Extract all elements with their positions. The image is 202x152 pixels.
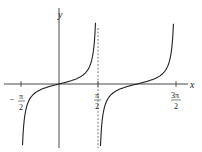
tick-label-neg-pi-2: − π 2: [9, 92, 25, 112]
svg-text:π: π: [19, 92, 23, 101]
svg-text:2: 2: [174, 102, 178, 111]
svg-text:2: 2: [95, 102, 99, 111]
tick-label-pi-2: π 2: [94, 91, 101, 111]
x-axis-label: x: [189, 79, 195, 90]
y-axis-label: y: [57, 9, 63, 20]
svg-text:−: −: [9, 94, 14, 104]
svg-text:π: π: [95, 91, 99, 100]
svg-text:2: 2: [19, 103, 23, 112]
tangent-plot: y x − π 2 π 2 3π 2: [0, 0, 202, 152]
tan-curve-branch-2: [100, 24, 173, 146]
svg-text:3π: 3π: [171, 91, 179, 100]
tick-label-3pi-2: 3π 2: [171, 91, 181, 111]
